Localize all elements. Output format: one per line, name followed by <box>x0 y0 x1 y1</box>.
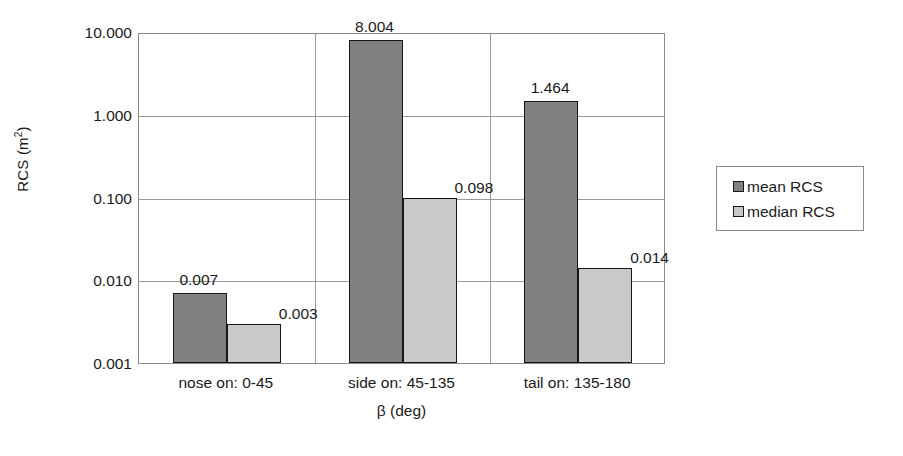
bar-value-label: 0.007 <box>167 272 231 288</box>
y-axis-title: RCS (m2) <box>13 99 31 219</box>
chart-legend: mean RCSmedian RCS <box>716 166 864 231</box>
y-axis-title-text: RCS (m <box>14 137 31 192</box>
y-axis-title-superscript: 2 <box>13 131 24 137</box>
x-axis-category-label: nose on: 0-45 <box>138 374 314 392</box>
y-axis-tick-labels: 10.0001.0000.1000.0100.001 <box>54 0 132 456</box>
bar-value-label: 1.464 <box>518 80 582 96</box>
legend-item-mean[interactable]: mean RCS <box>733 174 863 199</box>
y-axis-tick-label: 10.000 <box>60 25 132 41</box>
bar-value-label: 0.098 <box>455 180 494 196</box>
y-axis-tick-label: 0.100 <box>60 191 132 207</box>
x-axis-category-label: tail on: 135-180 <box>489 374 665 392</box>
bar-mean[interactable] <box>173 293 227 363</box>
bar-value-label: 0.014 <box>630 250 669 266</box>
x-axis-category-labels: nose on: 0-45side on: 45-135tail on: 135… <box>138 374 665 398</box>
legend-swatch-icon <box>733 181 744 192</box>
y-axis-title-close: ) <box>14 126 31 131</box>
legend-swatch-icon <box>733 206 744 217</box>
bar-median[interactable] <box>227 324 281 363</box>
legend-label: mean RCS <box>747 179 823 195</box>
legend-label: median RCS <box>747 204 835 220</box>
bar-median[interactable] <box>578 268 632 363</box>
x-axis-category-label: side on: 45-135 <box>314 374 490 392</box>
category-separator-gridline <box>490 34 491 363</box>
rcs-bar-chart: RCS (m2) 10.0001.0000.1000.0100.001 nose… <box>0 0 903 456</box>
plot-area <box>138 33 665 364</box>
bar-value-label: 0.003 <box>279 306 318 322</box>
bar-median[interactable] <box>403 198 457 363</box>
legend-item-median[interactable]: median RCS <box>733 199 863 224</box>
y-axis-tick-label: 0.010 <box>60 273 132 289</box>
bar-value-label: 8.004 <box>343 19 407 35</box>
bar-mean[interactable] <box>524 101 578 363</box>
y-axis-tick-label: 0.001 <box>60 356 132 372</box>
bar-mean[interactable] <box>349 40 403 363</box>
x-axis-title: β (deg) <box>138 402 665 420</box>
y-axis-tick-label: 1.000 <box>60 108 132 124</box>
